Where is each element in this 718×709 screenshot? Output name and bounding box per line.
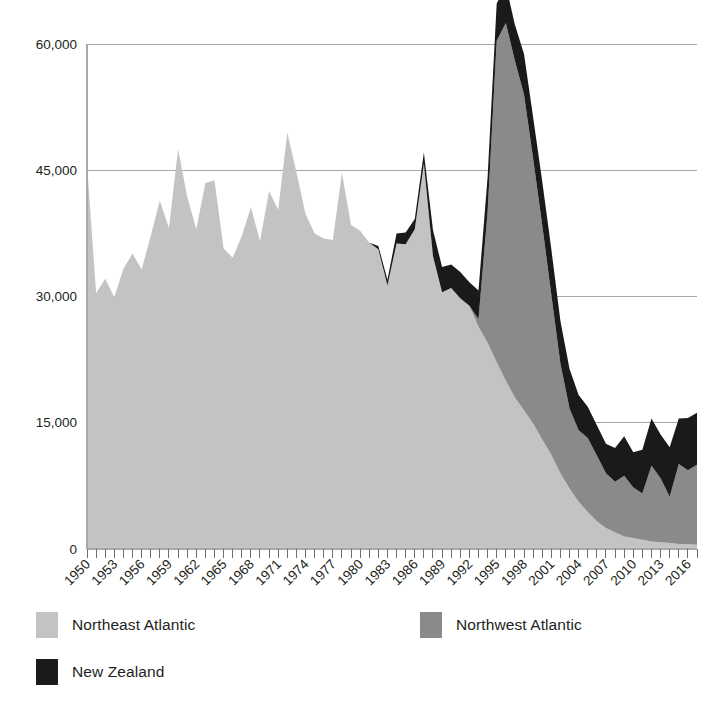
x-axis-tick-label: 1971 [252, 557, 284, 589]
x-axis-tick-label: 1968 [225, 557, 257, 589]
x-axis-tick-label: 1974 [280, 556, 312, 588]
x-axis-tick-label: 1986 [389, 557, 421, 589]
legend-label-new-zealand: New Zealand [72, 663, 164, 681]
legend-item-new-zealand: New Zealand [36, 659, 164, 685]
legend-swatch-northwest-atlantic [420, 612, 442, 638]
stacked-area-chart: 015,00030,00045,00060,000195019531956195… [0, 0, 718, 709]
x-axis-tick-label: 1989 [416, 557, 448, 589]
x-axis-tick-label: 2016 [662, 557, 694, 589]
x-axis-tick-label: 1953 [89, 557, 121, 589]
x-axis-tick-label: 1962 [171, 557, 203, 589]
y-axis-tick-label: 0 [69, 542, 77, 557]
chart-plot-area: 015,00030,00045,00060,000195019531956195… [0, 0, 718, 600]
x-axis-tick-label: 1998 [498, 557, 530, 589]
x-axis-tick-label: 2013 [635, 557, 667, 589]
y-axis-tick-label: 45,000 [36, 163, 77, 178]
legend-label-northwest-atlantic: Northwest Atlantic [456, 616, 582, 634]
legend-swatch-new-zealand [36, 659, 58, 685]
x-axis-tick-label: 1977 [307, 557, 339, 589]
legend-label-northeast-atlantic: Northeast Atlantic [72, 616, 195, 634]
x-axis-tick-label: 1950 [61, 557, 93, 589]
x-axis-tick-label: 1995 [471, 557, 503, 589]
x-axis-tick-label: 2007 [580, 557, 612, 589]
legend-swatch-northeast-atlantic [36, 612, 58, 638]
y-axis-tick-label: 60,000 [36, 37, 77, 52]
x-axis-tick-label: 1983 [362, 557, 394, 589]
x-axis-tick-label: 2010 [608, 557, 640, 589]
x-axis-tick-label: 1956 [116, 557, 148, 589]
y-axis-tick-label: 30,000 [36, 289, 77, 304]
y-axis-tick-label: 15,000 [36, 415, 77, 430]
x-axis-tick-label: 2001 [526, 557, 558, 589]
x-axis-tick-label: 1992 [444, 557, 476, 589]
x-axis-tick-label: 1980 [334, 557, 366, 589]
x-axis-tick-label: 2004 [553, 556, 585, 588]
legend-item-northeast-atlantic: Northeast Atlantic [36, 612, 195, 638]
legend-item-northwest-atlantic: Northwest Atlantic [420, 612, 582, 638]
x-axis-tick-label: 1959 [143, 557, 175, 589]
x-axis-tick-label: 1965 [198, 557, 230, 589]
